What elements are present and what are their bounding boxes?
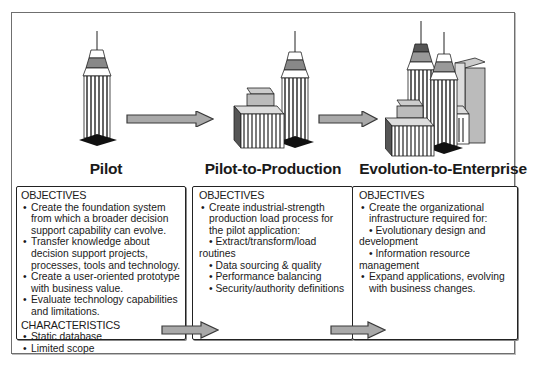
objectives-heading: OBJECTIVES xyxy=(21,190,181,202)
objectives-list: Create industrial-strength production lo… xyxy=(199,202,347,237)
sub-list-item: • Security/authority definitions xyxy=(199,283,347,295)
sub-list-item: • Extract/transform/load routines xyxy=(199,236,347,259)
characteristics-heading: CHARACTERISTICS xyxy=(21,320,181,332)
arrow-right-icon xyxy=(126,111,214,127)
objectives-list-continued: Expand applications, evolving with busin… xyxy=(359,271,512,294)
sub-list: • Evolutionary design and development • … xyxy=(359,225,512,271)
single-skyscraper-icon xyxy=(75,28,125,148)
sub-list-item: • Evolutionary design and development xyxy=(359,225,512,248)
list-item: Expand applications, evolving with busin… xyxy=(359,271,512,294)
evolution-to-enterprise-details-box: OBJECTIVES Create the organizational inf… xyxy=(352,186,518,340)
arrow-right-icon xyxy=(161,321,219,339)
list-item: Create the foundation system from which … xyxy=(21,202,181,237)
list-item: Limited scope xyxy=(21,343,181,355)
sub-list-item: • Information resource management xyxy=(359,248,512,271)
arrow-right-icon xyxy=(330,321,386,339)
pilot-details-box: OBJECTIVES Create the foundation system … xyxy=(16,186,186,340)
sub-list-item: • Performance balancing xyxy=(199,271,347,283)
stage-title-pilot-to-production: Pilot-to-Production xyxy=(188,160,358,178)
list-item: Create the organizational infrastructure… xyxy=(359,202,512,225)
characteristics-list: Static database Limited scope xyxy=(21,331,181,354)
list-item: Create industrial-strength production lo… xyxy=(199,202,347,237)
list-item: Create a user-oriented prototype with bu… xyxy=(21,271,181,294)
stage-title-evolution-to-enterprise: Evolution-to-Enterprise xyxy=(345,160,541,178)
objectives-heading: OBJECTIVES xyxy=(199,190,347,202)
list-item: Static database xyxy=(21,331,181,343)
objectives-list: Create the organizational infrastructure… xyxy=(359,202,512,225)
list-item: Evaluate technology capabilities and lim… xyxy=(21,294,181,317)
sub-list-item: • Data sourcing & quality xyxy=(199,260,347,272)
list-item: Transfer knowledge about decision suppor… xyxy=(21,236,181,271)
objectives-heading: OBJECTIVES xyxy=(359,190,512,202)
sub-list: • Extract/transform/load routines • Data… xyxy=(199,236,347,294)
arrow-right-icon xyxy=(318,111,378,127)
stage-title-pilot: Pilot xyxy=(58,160,154,178)
pilot-to-production-details-box: OBJECTIVES Create industrial-strength pr… xyxy=(192,186,353,340)
city-cluster-icon xyxy=(385,18,510,158)
skyscraper-with-low-building-icon xyxy=(222,28,332,153)
objectives-list: Create the foundation system from which … xyxy=(21,202,181,318)
